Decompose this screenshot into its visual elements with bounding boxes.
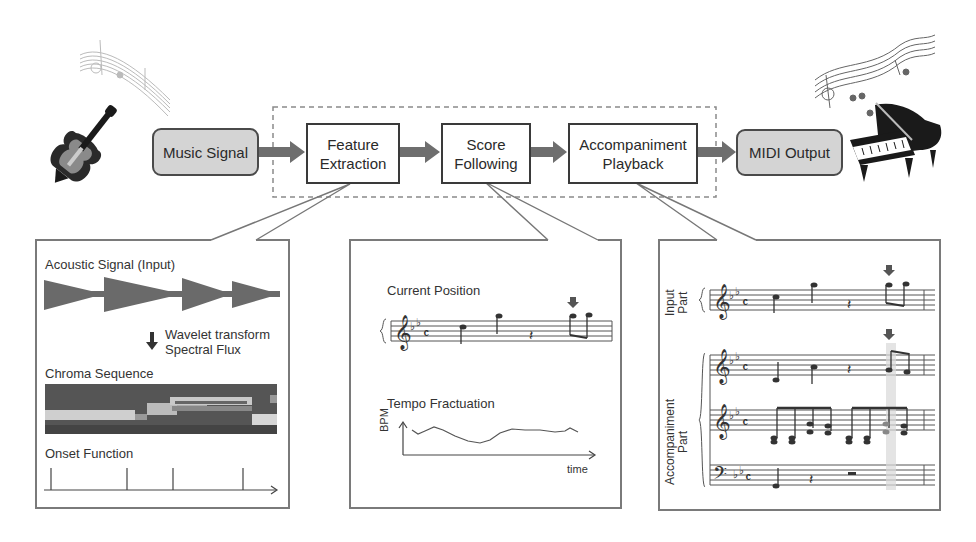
music-notes-icon xyxy=(815,35,935,116)
svg-text:♭: ♭ xyxy=(735,405,740,418)
music-signal-label: Music Signal xyxy=(163,144,248,161)
stage-label-line2: Following xyxy=(454,154,517,173)
tempo-graph xyxy=(399,422,595,459)
svg-text:𝄽: 𝄽 xyxy=(529,327,533,343)
accompaniment-playback-box: Accompaniment Playback xyxy=(568,123,698,184)
bpm-axis-label: BPM xyxy=(378,408,390,432)
time-axis-label: time xyxy=(567,463,588,475)
accompaniment-part-label: Accompaniment Part xyxy=(664,399,690,485)
stage-label-line1: Feature xyxy=(327,135,379,154)
svg-text:♭: ♭ xyxy=(729,354,734,367)
svg-text:♭: ♭ xyxy=(735,350,740,363)
arrow-icon xyxy=(698,141,736,163)
grand-piano-icon xyxy=(850,103,941,182)
onset-function-label: Onset Function xyxy=(45,446,133,461)
music-notes-icon xyxy=(80,40,170,116)
svg-text:♭: ♭ xyxy=(739,464,744,477)
svg-text:𝄴: 𝄴 xyxy=(745,469,751,485)
brace-icon xyxy=(380,319,386,343)
accompaniment-notes: 𝄞 ♭♭ 𝄴 𝄽 𝄞 ♭♭ 𝄴 𝄽 𝄞 ♭♭ 𝄴 xyxy=(713,265,911,489)
stage-label-line1: Accompaniment xyxy=(579,135,687,154)
brace-icon xyxy=(699,288,705,312)
svg-text:♭: ♭ xyxy=(733,468,738,481)
callout-lines xyxy=(211,182,756,240)
staff-notes: 𝄞 ♭ ♭ 𝄴 𝄽 xyxy=(394,297,593,351)
position-marker-icon xyxy=(883,265,895,276)
brace-icon xyxy=(699,353,705,487)
midi-output-box: MIDI Output xyxy=(736,129,843,176)
svg-text:𝄴: 𝄴 xyxy=(742,359,748,375)
onset-function-graphic xyxy=(44,468,277,494)
chroma-sequence-image xyxy=(45,384,277,434)
arrow-icon xyxy=(400,141,440,163)
svg-text:♭: ♭ xyxy=(729,409,734,422)
input-part-line2: Part xyxy=(677,289,690,316)
svg-text:𝄴: 𝄴 xyxy=(423,325,429,341)
svg-text:♭: ♭ xyxy=(416,316,421,329)
position-marker-icon xyxy=(567,297,579,308)
arrow-icon xyxy=(258,141,305,163)
svg-text:𝄽: 𝄽 xyxy=(809,471,813,487)
current-position-label: Current Position xyxy=(387,283,480,298)
input-part-label: Input Part xyxy=(664,289,690,316)
waveform-graphic xyxy=(44,277,280,312)
svg-text:♭: ♭ xyxy=(735,285,740,298)
stage-label-line2: Extraction xyxy=(320,154,387,173)
svg-text:♭: ♭ xyxy=(410,320,415,333)
svg-text:𝄴: 𝄴 xyxy=(742,414,748,430)
feature-extraction-box: Feature Extraction xyxy=(306,123,400,184)
svg-text:𝄢: 𝄢 xyxy=(713,463,727,488)
position-marker-icon xyxy=(883,329,895,340)
svg-text:𝄽: 𝄽 xyxy=(847,361,851,377)
tempo-fluctuation-label: Tempo Fractuation xyxy=(387,396,495,411)
transform-label-line1: Wavelet transform xyxy=(165,327,270,342)
score-following-box: Score Following xyxy=(441,123,531,184)
arrow-icon xyxy=(531,141,567,163)
midi-output-label: MIDI Output xyxy=(749,144,830,161)
music-signal-box: Music Signal xyxy=(152,128,259,176)
stage-label-line2: Playback xyxy=(603,154,664,173)
acoustic-signal-label: Acoustic Signal (Input) xyxy=(45,257,175,272)
accompaniment-part-line2: Part xyxy=(677,399,690,485)
violin-icon xyxy=(38,94,130,196)
transform-label: Wavelet transform Spectral Flux xyxy=(165,327,270,357)
transform-label-line2: Spectral Flux xyxy=(165,342,270,357)
down-arrow-icon xyxy=(146,332,158,350)
svg-text:𝄴: 𝄴 xyxy=(742,294,748,310)
svg-text:♭: ♭ xyxy=(729,289,734,302)
stage-label-line1: Score xyxy=(466,135,505,154)
svg-text:𝄽: 𝄽 xyxy=(847,296,851,312)
chroma-sequence-label: Chroma Sequence xyxy=(45,366,153,381)
